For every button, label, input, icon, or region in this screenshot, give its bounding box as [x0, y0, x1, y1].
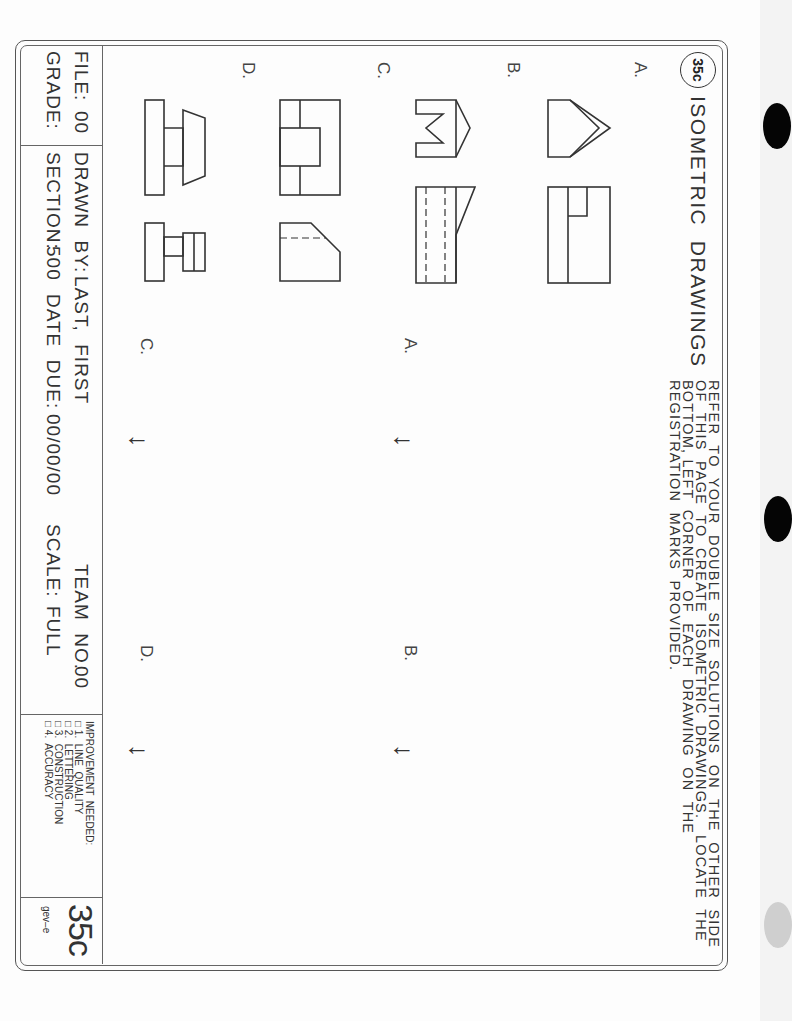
team-number-value: 00 — [70, 666, 92, 689]
title-block-number-cell: 35c gev–e — [21, 898, 102, 964]
team-number-label: TEAM NO. — [70, 564, 92, 670]
publisher-code: gev–e — [41, 906, 52, 933]
binder-hole-middle — [764, 496, 792, 542]
scale-value: FULL — [42, 606, 64, 656]
grade-label: GRADE: — [42, 51, 64, 130]
file-value: 00 — [70, 111, 92, 134]
answer-label-b: B. — [400, 645, 420, 661]
drawing-d-side-view — [15, 40, 728, 971]
answer-label-c: C. — [136, 338, 156, 355]
drawn-by-label: DRAWN BY: — [70, 152, 92, 273]
sheet-number: 35c — [61, 904, 100, 956]
improvement-title: IMPROVEMENT NEEDED: — [84, 721, 94, 845]
answer-label-d: D. — [136, 645, 156, 662]
registration-arrow-a: ← — [389, 423, 415, 449]
section-value: 500 — [42, 246, 64, 281]
date-due-value: 00/00/00 — [42, 414, 64, 496]
registration-arrow-c: ← — [124, 423, 150, 449]
improvement-item-lettering[interactable]: □ 2. LETTERING — [63, 721, 73, 800]
registration-arrow-b: ← — [389, 733, 415, 759]
section-label: SECTION: — [42, 152, 64, 250]
improvement-item-line-quality[interactable]: □ 1. LINE QUALITY — [73, 721, 83, 814]
title-block: FILE: 00 GRADE: DRAWN BY: LAST, FIRST TE… — [21, 45, 103, 964]
file-label: FILE: — [70, 51, 92, 101]
title-block-file-cell: FILE: 00 GRADE: — [21, 45, 102, 146]
title-block-info-cell: DRAWN BY: LAST, FIRST TEAM NO. 00 SECTIO… — [21, 146, 102, 715]
answer-label-a: A. — [400, 338, 420, 354]
binder-hole-top — [763, 103, 791, 149]
drawn-by-value: LAST, FIRST — [70, 276, 92, 404]
title-block-improvement-cell: IMPROVEMENT NEEDED: □ 1. LINE QUALITY □ … — [21, 715, 102, 898]
improvement-item-accuracy[interactable]: □ 4. ACCURACY — [43, 721, 53, 799]
improvement-item-construction[interactable]: □ 3. CONSTRUCTION — [53, 721, 63, 824]
date-due-label: DATE DUE: — [42, 294, 64, 409]
registration-arrow-d: ← — [124, 733, 150, 759]
scale-label: SCALE: — [42, 524, 64, 598]
binder-hole-bottom — [764, 902, 792, 948]
drawing-sheet: 35c ISOMETRIC DRAWINGS REFER TO YOUR DOU… — [15, 40, 728, 971]
